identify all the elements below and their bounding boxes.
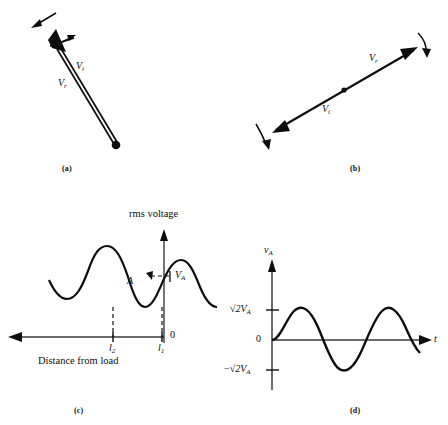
panel-d-graphic: [224, 195, 448, 425]
panel-c-origin-label: 0: [170, 329, 175, 340]
panel-a-caption: (a): [62, 164, 72, 173]
panel-a-label-vr: Vr: [58, 77, 67, 90]
panel-b-graphic: [224, 0, 448, 180]
panel-a-label-vi: Vi: [76, 60, 84, 73]
time-waveform-curve: [272, 308, 420, 371]
panel-c-xlabel: Distance from load: [38, 355, 118, 366]
panel-c-tick-label-l2: l2: [109, 342, 115, 355]
phasor-arrowhead-lower: [272, 120, 290, 133]
panel-c-value-label: VA: [175, 269, 185, 282]
panel-b-label-vr: Vr: [369, 52, 378, 65]
panel-b-label-vi: Vi: [322, 103, 330, 116]
panel-d-tick-label-positive: √ 2VA: [230, 303, 251, 316]
radical-icon-negative: √: [230, 363, 236, 374]
panel-c-tick-label-l1: l1: [158, 342, 164, 355]
panel-c-graphic: [0, 195, 224, 425]
phasor-origin-dot: [112, 141, 121, 150]
phasor-arrowhead-upper: [400, 47, 418, 60]
radical-icon: √: [230, 303, 236, 314]
phasor-midpoint-dot: [341, 87, 346, 92]
panel-d-origin-label: 0: [256, 333, 261, 344]
panel-b-caption: (b): [350, 164, 360, 173]
rotation-arrow-upper: [418, 33, 431, 58]
phasor-double-line: [57, 47, 117, 144]
rotation-arrow-lower: [256, 124, 271, 150]
panel-d-ylabel: vA: [264, 244, 273, 257]
panel-d-caption: (d): [350, 406, 360, 415]
panel-a: Vi Vr (a): [0, 0, 224, 180]
upper-left-arrow: [31, 13, 56, 28]
panel-d-xlabel: t: [434, 333, 437, 344]
panel-c: rms voltage Distance from load A VA 0 l2…: [0, 195, 224, 425]
c-x-axis: [8, 332, 164, 342]
d-x-axis: [272, 335, 432, 345]
panel-c-point-label: A: [127, 275, 133, 286]
panel-c-ylabel: rms voltage: [129, 208, 178, 219]
panel-d-tick-label-negative: − √ 2VA: [224, 363, 251, 376]
panel-d: vA t 0 √ 2VA − √ 2VA (d): [224, 195, 448, 425]
panel-b: Vr Vi (b): [224, 0, 448, 180]
panel-a-graphic: [0, 0, 224, 180]
phasor-arrowhead: [48, 29, 66, 60]
panel-c-caption: (c): [74, 406, 83, 415]
point-a-marker: [146, 271, 153, 280]
